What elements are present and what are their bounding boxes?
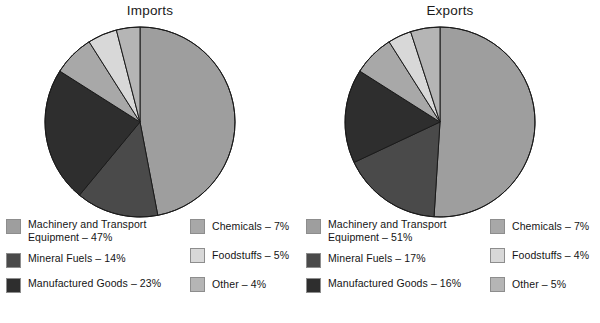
- exports-legend-column-left: Machinery and Transport Equipment – 51% …: [306, 218, 486, 302]
- legend-swatch-manufactured-goods: [306, 278, 321, 293]
- legend-item[interactable]: Chemicals – 7%: [490, 218, 600, 234]
- legend-label-foodstuffs: Foodstuffs – 4%: [512, 249, 589, 262]
- legend-label-machinery-and-transport-equipment: Machinery and Transport Equipment – 51%: [328, 218, 446, 243]
- legend-label-other: Other – 5%: [512, 278, 566, 291]
- exports-pie-svg: [344, 26, 536, 218]
- legend-label-machinery-and-transport-equipment: Machinery and Transport Equipment – 47%: [28, 218, 146, 243]
- legend-label-other: Other – 4%: [212, 278, 266, 291]
- legend-label-chemicals: Chemicals – 7%: [212, 220, 289, 233]
- exports-pie: [344, 26, 536, 218]
- legend-swatch-manufactured-goods: [6, 278, 21, 293]
- imports-legend-column-left: Machinery and Transport Equipment – 47% …: [6, 218, 186, 302]
- legend-swatch-other: [190, 277, 205, 292]
- legend-label-manufactured-goods: Manufactured Goods – 16%: [328, 277, 461, 290]
- imports-chart-title: Imports: [0, 3, 300, 18]
- legend-item[interactable]: Machinery and Transport Equipment – 51%: [306, 218, 486, 243]
- legend-swatch-foodstuffs: [190, 248, 205, 263]
- legend-swatch-mineral-fuels: [306, 253, 321, 268]
- legend-label-manufactured-goods: Manufactured Goods – 23%: [28, 277, 161, 290]
- legend-item[interactable]: Manufactured Goods – 16%: [306, 277, 486, 293]
- legend-swatch-chemicals: [490, 219, 505, 234]
- legend-label-foodstuffs: Foodstuffs – 5%: [212, 249, 289, 262]
- imports-pie: [44, 26, 236, 218]
- legend-item[interactable]: Other – 5%: [490, 276, 600, 292]
- legend-item[interactable]: Foodstuffs – 5%: [190, 247, 300, 263]
- exports-legend-column-right: Chemicals – 7% Foodstuffs – 4% Other – 5…: [490, 218, 600, 305]
- legend-item[interactable]: Manufactured Goods – 23%: [6, 277, 186, 293]
- legend-swatch-machinery-and-transport-equipment: [6, 219, 21, 234]
- legend-swatch-other: [490, 277, 505, 292]
- exports-chart-panel: Exports Machinery and Transport Equipmen…: [300, 0, 600, 323]
- exports-legend: Machinery and Transport Equipment – 51% …: [300, 218, 600, 308]
- legend-label-chemicals: Chemicals – 7%: [512, 220, 589, 233]
- legend-item[interactable]: Mineral Fuels – 17%: [306, 252, 486, 268]
- legend-item[interactable]: Other – 4%: [190, 276, 300, 292]
- pie-slice[interactable]: [140, 27, 235, 215]
- imports-chart-panel: Imports Machinery and Transport Equipmen…: [0, 0, 300, 323]
- imports-pie-slices: [45, 27, 235, 217]
- legend-label-mineral-fuels: Mineral Fuels – 14%: [28, 252, 126, 265]
- legend-item[interactable]: Foodstuffs – 4%: [490, 247, 600, 263]
- legend-swatch-mineral-fuels: [6, 253, 21, 268]
- legend-item[interactable]: Machinery and Transport Equipment – 47%: [6, 218, 186, 243]
- legend-swatch-foodstuffs: [490, 248, 505, 263]
- imports-legend-column-right: Chemicals – 7% Foodstuffs – 5% Other – 4…: [190, 218, 300, 305]
- pie-slice[interactable]: [434, 27, 535, 217]
- imports-legend: Machinery and Transport Equipment – 47% …: [0, 218, 300, 308]
- imports-pie-svg: [44, 26, 236, 218]
- exports-pie-slices: [345, 27, 535, 217]
- legend-item[interactable]: Chemicals – 7%: [190, 218, 300, 234]
- legend-swatch-chemicals: [190, 219, 205, 234]
- exports-chart-title: Exports: [300, 3, 600, 18]
- legend-item[interactable]: Mineral Fuels – 14%: [6, 252, 186, 268]
- legend-label-mineral-fuels: Mineral Fuels – 17%: [328, 252, 426, 265]
- legend-swatch-machinery-and-transport-equipment: [306, 219, 321, 234]
